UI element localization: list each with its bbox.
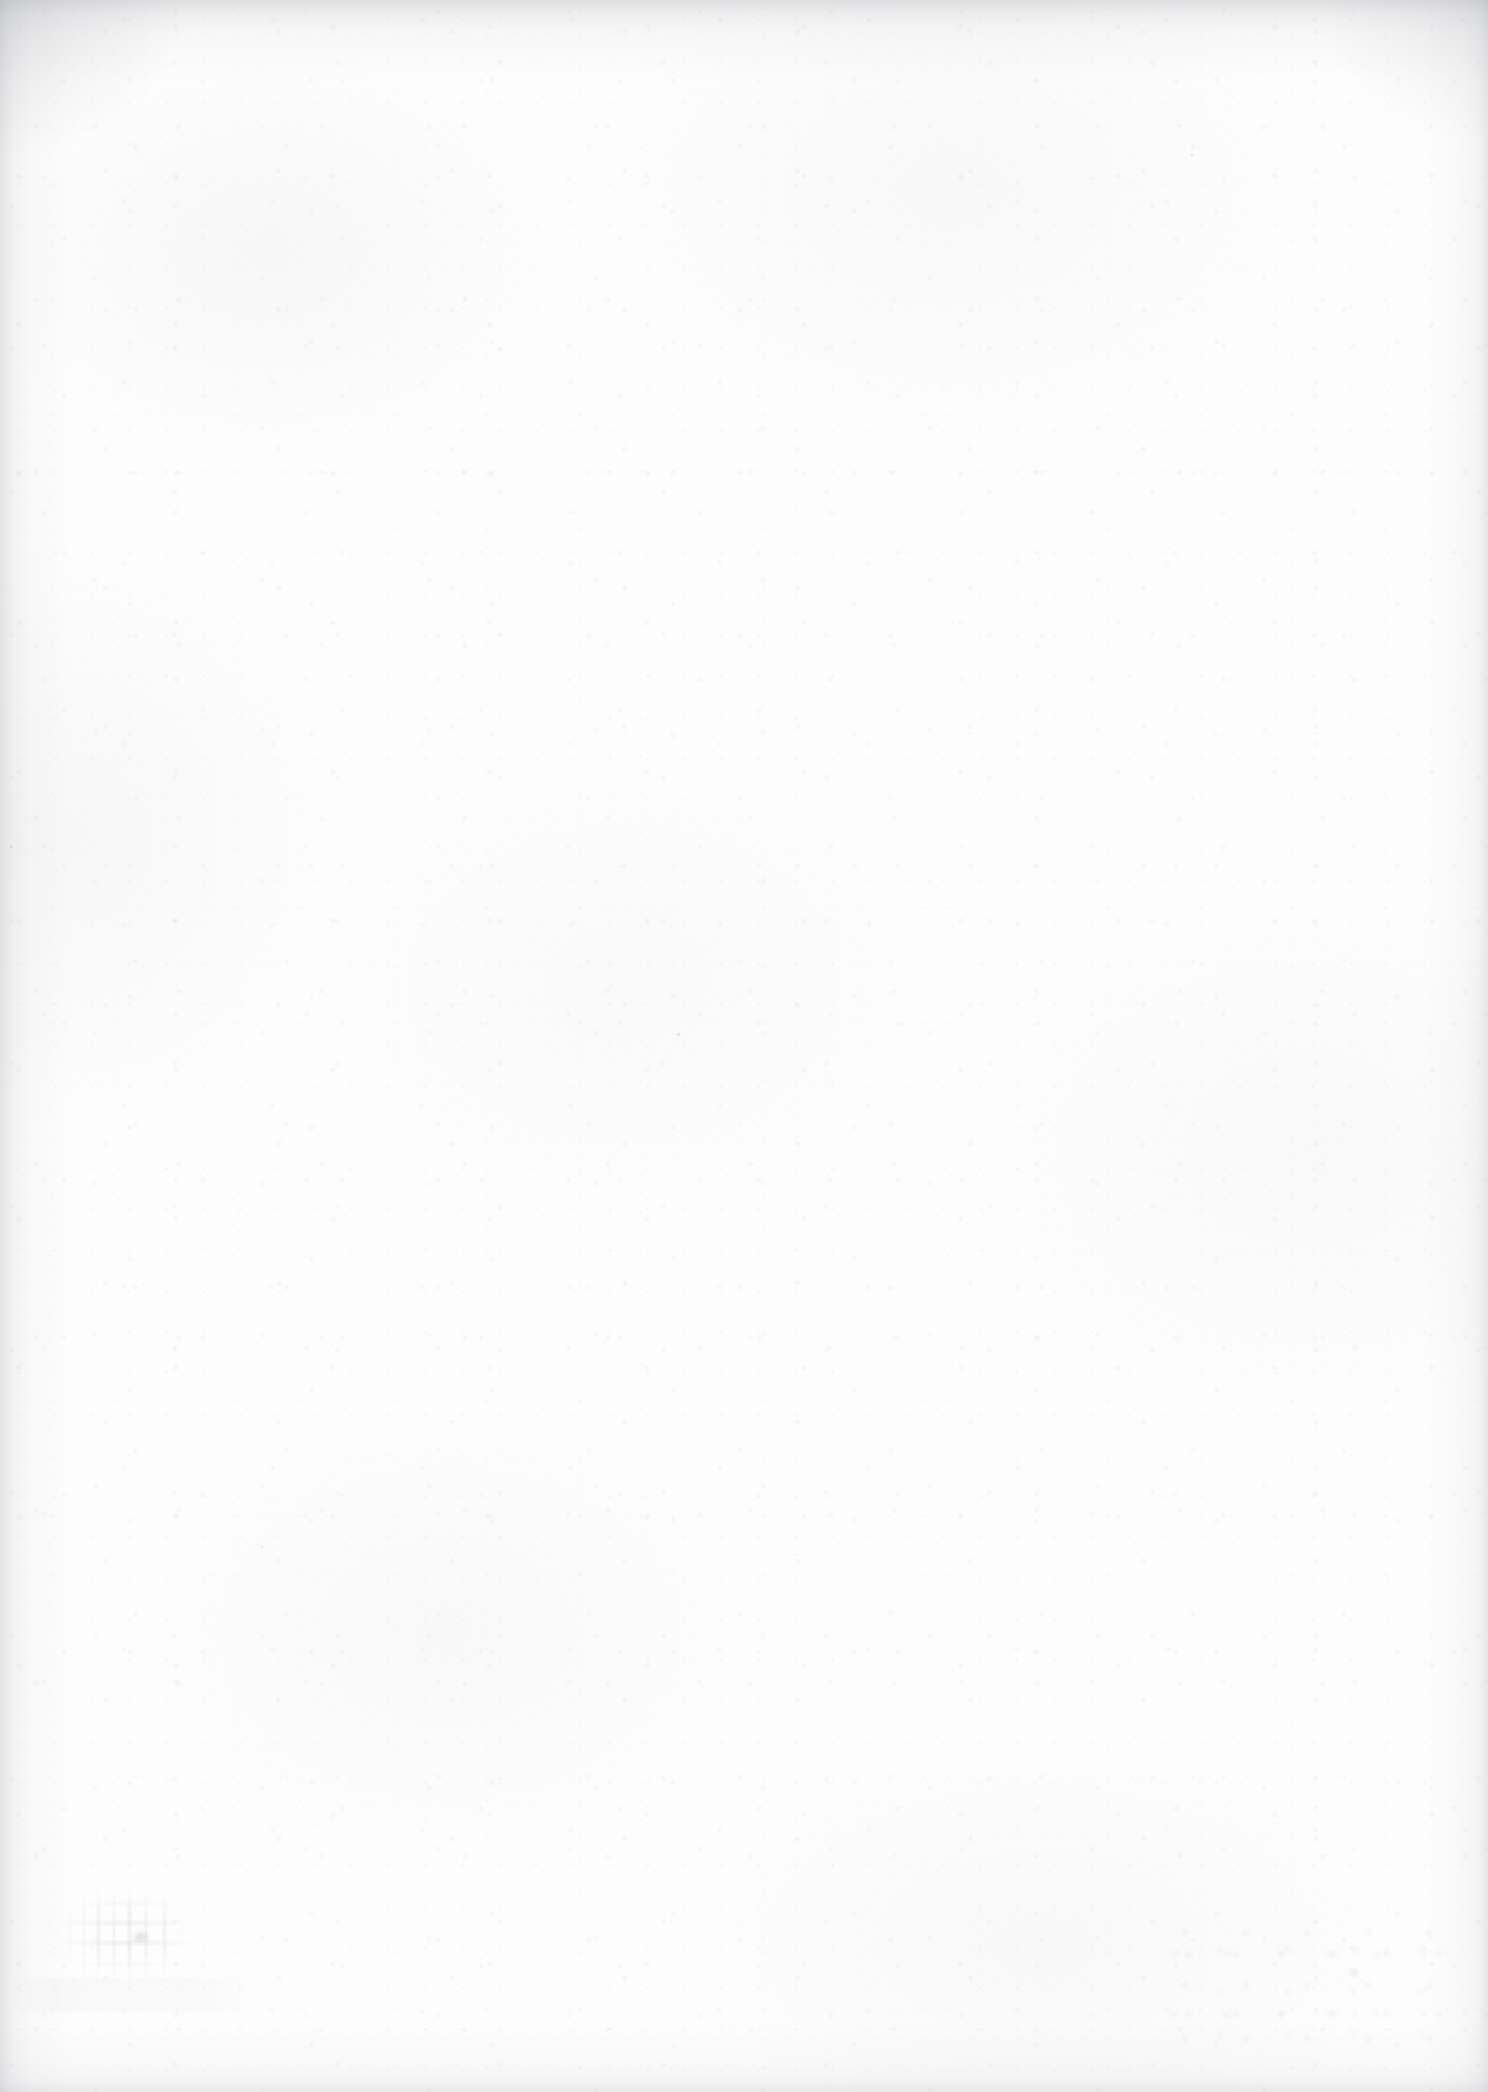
ink-blob-artifact <box>128 1928 154 1946</box>
speckle-smudge-artifact <box>1168 1918 1468 2048</box>
scanner-speck <box>1190 153 1194 157</box>
page-content-area <box>150 160 1338 1920</box>
scanner-speck <box>9 845 14 849</box>
smudge-band-artifact <box>10 1978 260 2012</box>
scanned-page <box>0 0 1488 2092</box>
